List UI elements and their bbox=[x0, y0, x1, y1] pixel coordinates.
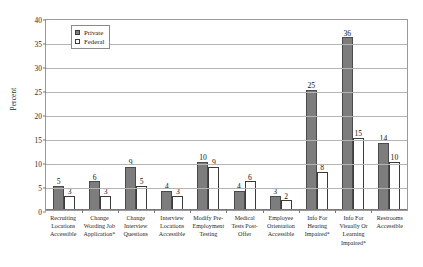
x-axis-category-label: EmployeeOrientationAccessible bbox=[263, 214, 299, 247]
x-axis-category-label: Info ForHearingImpaired* bbox=[299, 214, 335, 247]
bar-private: 4 bbox=[234, 191, 245, 210]
bar-chart: Percent 53639543109463225836151410 05101… bbox=[0, 0, 423, 267]
y-axis-tick-mark bbox=[43, 92, 46, 93]
x-axis-baseline bbox=[46, 209, 407, 210]
y-axis-tick-label: 30 bbox=[35, 64, 42, 73]
bar-group: 3615 bbox=[335, 20, 371, 210]
x-axis-tick-mark bbox=[82, 210, 83, 213]
x-axis-category-label: Modify Pre-EmploymentTesting bbox=[190, 214, 226, 247]
y-axis-tick-mark bbox=[43, 116, 46, 117]
bar-federal: 8 bbox=[317, 172, 328, 210]
chart-footnote bbox=[60, 259, 383, 265]
legend-label-federal: Federal bbox=[84, 37, 104, 46]
y-axis-tick-mark bbox=[43, 188, 46, 189]
bar-value-label: 5 bbox=[140, 178, 144, 186]
bar-group: 1410 bbox=[371, 20, 407, 210]
bar-group: 32 bbox=[263, 20, 299, 210]
y-axis-tick-mark bbox=[43, 164, 46, 165]
legend-swatch-federal-icon bbox=[75, 39, 80, 44]
x-axis-tick-mark bbox=[371, 210, 372, 213]
bar-group: 109 bbox=[190, 20, 226, 210]
bar-value-label: 3 bbox=[104, 188, 108, 196]
gridline bbox=[46, 92, 407, 93]
gridline bbox=[46, 116, 407, 117]
gridline bbox=[46, 164, 407, 165]
bar-federal: 10 bbox=[389, 162, 400, 210]
y-axis-tick-label: 0 bbox=[38, 208, 42, 217]
bar-private: 3 bbox=[270, 196, 281, 210]
y-axis-tick-mark bbox=[43, 140, 46, 141]
y-axis-tick-mark bbox=[43, 20, 46, 21]
y-axis-tick-label: 15 bbox=[35, 136, 42, 145]
y-axis-tick-mark bbox=[43, 212, 46, 213]
bar-group: 95 bbox=[118, 20, 154, 210]
bar-value-label: 36 bbox=[344, 30, 352, 38]
x-axis-tick-mark bbox=[190, 210, 191, 213]
x-axis-category-label: InterviewLocationsAccessible bbox=[154, 214, 190, 247]
x-axis-category-label: ChangeInterviewQuestions bbox=[118, 214, 154, 247]
gridline bbox=[46, 188, 407, 189]
y-axis-tick-label: 25 bbox=[35, 88, 42, 97]
legend-label-private: Private bbox=[84, 28, 103, 37]
gridline bbox=[46, 68, 407, 69]
bar-private: 4 bbox=[161, 191, 172, 210]
bar-private: 25 bbox=[306, 90, 317, 210]
chart-legend: Private Federal bbox=[71, 25, 110, 49]
bar-value-label: 8 bbox=[320, 164, 324, 172]
x-axis-tick-mark bbox=[154, 210, 155, 213]
bar-value-label: 10 bbox=[199, 154, 207, 162]
bar-federal: 3 bbox=[100, 196, 111, 210]
y-axis-tick-mark bbox=[43, 44, 46, 45]
legend-swatch-private-icon bbox=[75, 30, 80, 35]
bar-group: 258 bbox=[299, 20, 335, 210]
x-axis-category-label: Info ForVisually OrLearningImpaired* bbox=[335, 214, 371, 247]
bar-value-label: 3 bbox=[68, 188, 72, 196]
bar-group: 43 bbox=[154, 20, 190, 210]
bar-value-label: 5 bbox=[57, 178, 61, 186]
bar-value-label: 3 bbox=[176, 188, 180, 196]
y-axis-tick-label: 10 bbox=[35, 160, 42, 169]
x-axis-tick-mark bbox=[226, 210, 227, 213]
bar-federal: 5 bbox=[136, 186, 147, 210]
legend-item-federal: Federal bbox=[75, 37, 104, 46]
bar-value-label: 2 bbox=[284, 193, 288, 201]
x-axis-labels: RecruitingLocationsAccessibleChangeWordi… bbox=[45, 214, 408, 247]
bar-value-label: 3 bbox=[273, 188, 277, 196]
y-axis-tick-label: 20 bbox=[35, 112, 42, 121]
x-axis-tick-mark bbox=[118, 210, 119, 213]
bar-private: 14 bbox=[378, 143, 389, 210]
bar-federal: 15 bbox=[353, 138, 364, 210]
y-axis-tick-label: 40 bbox=[35, 16, 42, 25]
bar-private: 36 bbox=[342, 37, 353, 210]
bar-federal: 3 bbox=[64, 196, 75, 210]
bar-value-label: 6 bbox=[93, 174, 97, 182]
gridline bbox=[46, 140, 407, 141]
bar-federal: 3 bbox=[172, 196, 183, 210]
x-axis-category-label: MedicalTests Post-Offer bbox=[226, 214, 262, 247]
bar-value-label: 10 bbox=[391, 154, 399, 162]
x-axis-tick-mark bbox=[299, 210, 300, 213]
x-axis-category-label: ChangeWording JobApplication* bbox=[81, 214, 117, 247]
bar-group: 46 bbox=[226, 20, 262, 210]
y-axis-tick-mark bbox=[43, 68, 46, 69]
bar-federal: 6 bbox=[245, 181, 256, 210]
legend-item-private: Private bbox=[75, 28, 104, 37]
y-axis-title: Percent bbox=[10, 64, 18, 134]
x-axis-tick-mark bbox=[263, 210, 264, 213]
bar-value-label: 25 bbox=[307, 82, 315, 90]
x-axis-tick-mark bbox=[335, 210, 336, 213]
x-axis-category-label: RestroomsAccessible bbox=[372, 214, 408, 247]
y-axis-tick-label: 5 bbox=[38, 184, 42, 193]
bar-private: 5 bbox=[53, 186, 64, 210]
y-axis-tick-label: 35 bbox=[35, 40, 42, 49]
bar-value-label: 6 bbox=[248, 174, 252, 182]
bar-value-label: 15 bbox=[355, 130, 363, 138]
bar-private: 10 bbox=[197, 162, 208, 210]
x-axis-category-label: RecruitingLocationsAccessible bbox=[45, 214, 81, 247]
bar-private: 6 bbox=[89, 181, 100, 210]
